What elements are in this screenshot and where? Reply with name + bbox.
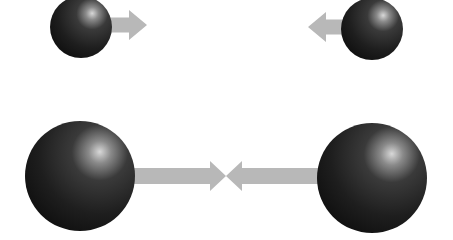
masses — [25, 0, 427, 233]
small-mass-pair-sphere-left — [50, 0, 112, 58]
large-mass-pair-arrow-right-icon — [134, 161, 226, 191]
large-mass-pair-arrow-left-icon — [226, 161, 318, 191]
gravitational-attraction-diagram — [0, 0, 453, 240]
large-mass-pair-sphere-right — [317, 123, 427, 233]
force-arrows — [110, 10, 345, 191]
small-mass-pair-sphere-right — [341, 0, 403, 60]
small-mass-pair-arrow-left-icon — [308, 12, 345, 42]
small-mass-pair-arrow-right-icon — [110, 10, 147, 40]
large-mass-pair-sphere-left — [25, 121, 135, 231]
